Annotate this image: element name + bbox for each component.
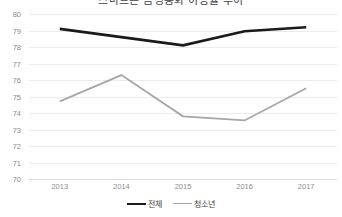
x-axis-tick-label: 2014 [99, 182, 143, 191]
y-axis-tick-label: 72 [0, 142, 21, 151]
series-lines-group [29, 14, 337, 179]
y-axis-tick-label: 78 [0, 43, 21, 52]
chart-legend: 전체청소년 [0, 198, 342, 209]
legend-item-label: 전체 [148, 198, 162, 209]
y-axis-tick-label: 76 [0, 76, 21, 85]
legend-line-swatch-icon [127, 203, 146, 205]
series-line [60, 75, 306, 120]
series-line [60, 27, 306, 45]
y-axis-tick-label: 74 [0, 109, 21, 118]
legend-item-total[interactable]: 전체 [127, 198, 162, 209]
x-axis-tick-label: 2013 [38, 182, 82, 191]
plot-area: 8079787776757473727170 20132014201520162… [29, 14, 337, 179]
y-axis-tick-label: 70 [0, 175, 21, 184]
y-axis-tick-label: 73 [0, 125, 21, 134]
legend-line-swatch-icon [173, 203, 192, 204]
y-axis-tick-label: 77 [0, 59, 21, 68]
y-axis-tick-label: 79 [0, 26, 21, 35]
y-axis-tick-label: 71 [0, 158, 21, 167]
gridline [29, 179, 337, 180]
x-axis-tick-label: 2016 [223, 182, 267, 191]
legend-item-label: 청소년 [194, 198, 215, 209]
chart-title: 스마트폰 음성통화 이용률 추이 [0, 0, 342, 7]
chart-screenshot: 스마트폰 음성통화 이용률 추이 8079787776757473727170 … [0, 0, 342, 217]
x-axis-tick-label: 2015 [161, 182, 205, 191]
y-axis-tick-label: 75 [0, 92, 21, 101]
y-axis-tick-label: 80 [0, 10, 21, 19]
legend-item-youth[interactable]: 청소년 [173, 198, 215, 209]
x-axis-tick-label: 2017 [284, 182, 328, 191]
